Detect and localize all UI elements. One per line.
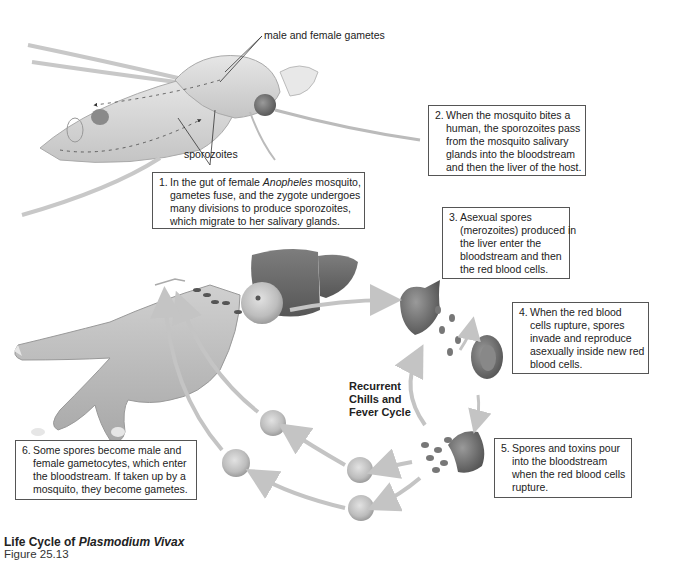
step-1-line-4: which migrate to her salivary glands. — [170, 215, 358, 228]
cycle-label-line: Recurrent — [349, 380, 411, 393]
step-5-line-2: into the bloodstream — [512, 455, 625, 468]
step-6-line-1: Some spores become male and — [33, 444, 190, 457]
step-number: 3. — [449, 211, 458, 224]
step-2-line-3: from the mosquito salivary — [446, 135, 579, 148]
step-1-box: 1. In the gut of female Anopheles mosqui… — [152, 172, 365, 229]
step-4-line-2: cells rupture, spores — [530, 319, 642, 332]
step-3-line-1: Asexual spores — [460, 211, 563, 224]
step-6-line-2: female gametocytes, which enter — [33, 457, 190, 470]
step-number: 2. — [435, 109, 444, 122]
step-4-line-1: When the red blood — [530, 306, 642, 319]
step-5-line-3: when the red blood cells — [512, 468, 625, 481]
step-2-box: 2. When the mosquito bites a human, the … — [428, 105, 586, 176]
step-3-line-2: (merozoites) produced in — [460, 224, 563, 237]
step-1-line-3: many divisions to produce sporozoites, — [170, 202, 358, 215]
figure-caption: Life Cycle of Plasmodium Vivax Figure 25… — [4, 536, 184, 560]
figure-number: Figure 25.13 — [4, 548, 184, 560]
liver-illustration — [241, 249, 358, 324]
step-1-line-2: gametes fuse, and the zygote undergoes — [170, 189, 358, 202]
step-number: 6. — [22, 444, 31, 457]
step-3-box: 3. Asexual spores (merozoites) produced … — [442, 207, 570, 279]
step-4-line-5: blood cells. — [530, 358, 642, 371]
gametes-label: male and female gametes — [264, 29, 385, 41]
step-4-line-4: asexually inside new red — [530, 345, 642, 358]
step-number: 1. — [159, 176, 168, 189]
step-number: 5. — [501, 442, 510, 455]
step-2-line-5: and then the liver of the host. — [446, 161, 579, 174]
step-3-line-5: the red blood cells. — [460, 263, 563, 276]
step-5-box: 5. Spores and toxins pour into the blood… — [494, 438, 632, 498]
cycle-label-line: Fever Cycle — [349, 406, 411, 419]
step-2-line-4: glands into the bloodstream — [446, 148, 579, 161]
step-1-line-1: In the gut of female Anopheles mosquito, — [170, 176, 358, 189]
cycle-label-line: Chills and — [349, 393, 411, 406]
sporozoites-label: sporozoites — [184, 148, 238, 160]
step-6-line-3: the bloodstream. If taken up by a — [33, 470, 190, 483]
step-2-line-1: When the mosquito bites a — [446, 109, 579, 122]
step-6-line-4: mosquito, they become gametes. — [33, 483, 190, 496]
step-5-line-4: rupture. — [512, 481, 625, 494]
step-5-line-1: Spores and toxins pour — [512, 442, 625, 455]
figure-title: Life Cycle of Plasmodium Vivax — [4, 536, 184, 548]
cycle-label: Recurrent Chills and Fever Cycle — [349, 380, 411, 419]
step-6-box: 6. Some spores become male and female ga… — [15, 440, 197, 500]
step-4-line-3: invade and reproduce — [530, 332, 642, 345]
step-number: 4. — [519, 306, 528, 319]
step-4-box: 4. When the red blood cells rupture, spo… — [512, 302, 649, 374]
step-2-line-2: human, the sporozoites pass — [446, 122, 579, 135]
step-3-line-3: the liver enter the — [460, 237, 563, 250]
step-3-line-4: bloodstream and then — [460, 250, 563, 263]
